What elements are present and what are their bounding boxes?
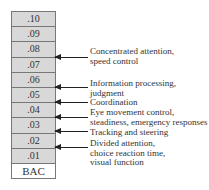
bac-level-006: .06 <box>12 73 55 88</box>
bac-level-003: .03 <box>12 118 55 133</box>
annotation-line: steadiness, emergency responses <box>90 118 208 128</box>
bac-label: BAC <box>12 164 55 179</box>
annotation-divided-attention: Divided attention, choice reaction time,… <box>90 139 165 168</box>
annotation-line: speed control <box>90 57 174 67</box>
arrow-left-icon <box>55 117 88 118</box>
bac-scale: .10 .09 .08 .07 .06 .05 .04 .03 .02 .01 … <box>11 11 56 179</box>
bac-level-007: .07 <box>12 58 55 73</box>
bac-level-001: .01 <box>12 149 55 164</box>
arrow-left-icon <box>55 57 88 58</box>
bac-level-010: .10 <box>12 12 55 27</box>
arrow-left-icon <box>55 147 88 148</box>
bac-level-008: .08 <box>12 42 55 57</box>
annotation-line: visual function <box>90 158 165 168</box>
arrow-left-icon <box>55 131 88 132</box>
annotation-tracking-steering: Tracking and steering <box>90 128 168 138</box>
bac-level-009: .09 <box>12 27 55 42</box>
annotation-line: Tracking and steering <box>90 128 168 138</box>
bac-level-005: .05 <box>12 88 55 103</box>
bac-level-004: .04 <box>12 103 55 118</box>
annotation-eye-movement: Eye movement control, steadiness, emerge… <box>90 108 208 127</box>
arrow-left-icon <box>55 102 88 103</box>
annotation-information-processing: Information processing, judgment <box>90 79 176 98</box>
bac-level-002: .02 <box>12 134 55 149</box>
arrow-left-icon <box>55 87 88 88</box>
annotation-concentrated-attention: Concentrated attention, speed control <box>90 47 174 66</box>
